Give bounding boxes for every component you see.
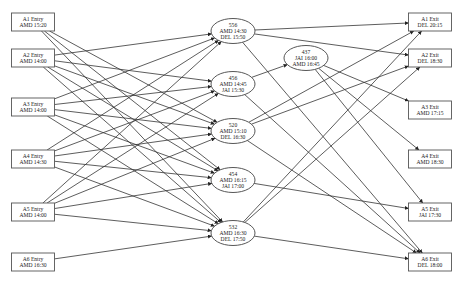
entry-node-a6: A6 EntryAMD 16:30 <box>12 253 55 271</box>
edge-A6E-F532 <box>55 236 212 259</box>
node-label-line: DEL 16:30 <box>221 134 246 140</box>
flight-node-437: 437JAI 16:00AMD 16:45 <box>284 46 328 71</box>
node-label-line: AMD 14:00 <box>19 107 46 113</box>
node-label-line: A5 Entry <box>23 206 44 212</box>
node-label-line: A1 Entry <box>23 16 44 22</box>
node-label-line: 456 <box>229 75 238 81</box>
node-label-line: AMD 17:15 <box>416 110 443 116</box>
node-label-line: JAI 17:00 <box>222 183 244 189</box>
node-label-line: DEL 20:15 <box>418 22 443 28</box>
exit-node-a6: A6 ExitDEL 18:00 <box>409 253 452 271</box>
node-label-line: JAI 15:30 <box>222 87 244 93</box>
entry-node-a5: A5 EntryAMD 14:00 <box>12 203 55 221</box>
node-label-line: 437 <box>302 49 311 55</box>
edge-F556-A2X <box>254 34 408 55</box>
node-label-line: 520 <box>229 122 238 128</box>
exit-node-a1: A1 ExitDEL 20:15 <box>409 13 452 31</box>
edge-A2E-F556 <box>55 34 212 55</box>
flight-node-520: 520AMD 15:10DEL 16:30 <box>211 119 255 144</box>
node-label-line: AMD 16:30 <box>19 262 46 268</box>
edge-A4E-F556 <box>47 40 218 150</box>
flight-network-diagram: A1 EntryAMD 15:20A2 EntryAMD 14:00A3 Ent… <box>0 0 464 285</box>
node-label-line: A5 Exit <box>421 206 439 212</box>
node-label-line: A3 Exit <box>421 104 439 110</box>
node-label-line: A2 Entry <box>23 52 44 58</box>
entry-node-a4: A4 EntryAMD 14:30 <box>12 150 55 168</box>
node-label-line: AMD 16:30 <box>219 230 246 236</box>
node-label-line: AMD 16:15 <box>219 177 246 183</box>
node-label-line: A3 Entry <box>23 101 44 107</box>
exit-node-a3: A3 ExitAMD 17:15 <box>409 101 452 119</box>
node-label-line: DEL 17:50 <box>221 236 246 242</box>
node-label-line: A6 Exit <box>421 256 439 262</box>
edge-A5E-F532 <box>55 214 212 230</box>
node-label-line: AMD 14:30 <box>19 159 46 165</box>
node-label-line: DEL 18:30 <box>418 58 443 64</box>
node-label-line: A6 Entry <box>23 256 44 262</box>
exit-node-a5: A5 ExitJAI 17:30 <box>409 203 452 221</box>
node-label-line: JAI 17:30 <box>419 212 441 218</box>
edge-F520-A6X <box>247 141 416 253</box>
node-label-line: AMD 16:45 <box>292 61 319 67</box>
entry-node-a3: A3 EntryAMD 14:00 <box>12 98 55 116</box>
node-label-line: AMD 14:00 <box>19 58 46 64</box>
flight-node-556: 556AMD 14:30DEL 15:50 <box>211 19 255 44</box>
exit-node-a4: A4 ExitAMD 18:30 <box>409 150 452 168</box>
node-label-line: AMD 14:30 <box>219 28 246 34</box>
edge-A4E-F456 <box>55 91 215 151</box>
flight-node-532: 532AMD 16:30DEL 17:50 <box>211 221 255 246</box>
entry-node-a1: A1 EntryAMD 15:20 <box>12 13 55 31</box>
edge-F456-F437 <box>252 65 288 78</box>
edge-A3E-F456 <box>55 86 212 104</box>
node-label-line: 454 <box>229 171 238 177</box>
node-label-line: DEL 15:50 <box>221 34 246 40</box>
node-label-line: 556 <box>229 22 238 28</box>
edge-F437-A5X <box>315 69 423 203</box>
edge-F520-A2X <box>251 66 408 124</box>
exit-node-a2: A2 ExitDEL 18:30 <box>409 49 452 67</box>
edge-F456-A6X <box>245 95 420 253</box>
node-label-line: A4 Entry <box>23 153 44 159</box>
node-label-line: AMD 15:20 <box>19 22 46 28</box>
node-label-line: A2 Exit <box>421 52 439 58</box>
node-label-line: A4 Exit <box>421 153 439 159</box>
node-label-line: DEL 18:00 <box>418 262 443 268</box>
edge-F556-A6X <box>243 42 423 253</box>
node-label-line: A1 Exit <box>421 16 439 22</box>
edge-A5E-F556 <box>43 42 221 203</box>
node-label-line: AMD 15:10 <box>219 128 246 134</box>
edge-F454-A5X <box>254 183 408 208</box>
flight-node-456: 456AMD 14:45JAI 15:30 <box>211 72 255 97</box>
node-label-line: AMD 14:00 <box>19 212 46 218</box>
entry-node-a2: A2 EntryAMD 14:00 <box>12 49 55 67</box>
node-label-line: JAI 16:00 <box>295 55 317 61</box>
edge-F556-A1X <box>255 23 409 30</box>
flight-node-454: 454AMD 16:15JAI 17:00 <box>211 168 255 193</box>
edge-A3E-F454 <box>55 115 215 173</box>
node-label-line: 532 <box>229 224 238 230</box>
node-label-line: AMD 14:45 <box>219 81 246 87</box>
edge-A1E-F454 <box>44 31 220 170</box>
edge-F532-A1X <box>243 31 421 222</box>
node-label-line: AMD 18:30 <box>416 159 443 165</box>
edge-A2E-F456 <box>55 61 212 81</box>
edge-F532-A6X <box>254 236 408 259</box>
